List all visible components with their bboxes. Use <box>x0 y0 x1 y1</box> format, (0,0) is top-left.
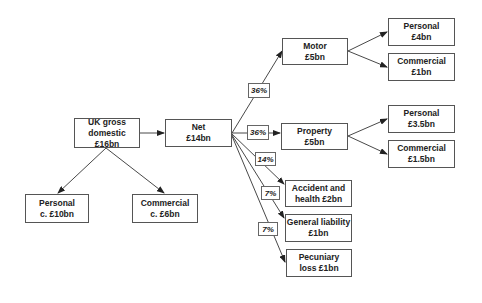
commercial-node: Commercial c. £6bn <box>132 194 198 223</box>
node-label-line2: £5bn <box>305 137 325 148</box>
node-label-line2: c. £10bn <box>40 209 74 220</box>
node-label-line2: £4bn <box>412 32 432 43</box>
node-label-line2: £1.5bn <box>408 154 435 165</box>
pecuniary-loss-share-label: 7% <box>258 222 278 236</box>
node-label-line2: £14bn <box>186 133 211 144</box>
node-label-line1: Commercial <box>141 198 190 209</box>
node-label-line1: Personal <box>39 198 75 209</box>
insurance-market-diagram: UK gross domestic £16bn Personal c. £10b… <box>0 0 482 303</box>
node-label-line2: £5bn <box>305 52 325 63</box>
general-liability-share-label: 7% <box>261 186 280 200</box>
motor-personal-node: Personal £4bn <box>388 18 455 46</box>
pecuniary-loss-node: Pecuniary loss £1bn <box>286 249 352 277</box>
node-label-line1: Pecuniary <box>299 252 340 263</box>
accident-share-label: 14% <box>255 152 276 166</box>
node-label-line2: £1bn <box>412 67 432 78</box>
node-label-line2: c. £6bn <box>150 209 179 220</box>
node-label-line1: Motor <box>303 41 327 52</box>
uk-gross-domestic-node: UK gross domestic £16bn <box>74 118 140 148</box>
node-label-line1: Commercial <box>397 56 446 67</box>
motor-commercial-node: Commercial £1bn <box>388 53 455 81</box>
property-node: Property £5bn <box>281 123 348 150</box>
net-node: Net £14bn <box>165 119 232 147</box>
node-label-line2: £1bn <box>309 228 329 239</box>
node-label-line1: Accident and <box>292 183 345 194</box>
node-label-line1: UK gross <box>88 117 126 128</box>
general-liability-node: General liability £1bn <box>285 214 352 242</box>
node-label-line1: Net <box>192 122 206 133</box>
property-share-label: 36% <box>247 125 269 140</box>
personal-node: Personal c. £10bn <box>25 194 89 223</box>
node-label-line1: Personal <box>404 21 440 32</box>
node-label-line2: loss £1bn <box>299 263 338 274</box>
node-label-line2: £3.5bn <box>408 119 435 130</box>
property-personal-node: Personal £3.5bn <box>388 105 455 133</box>
node-label-line2: health £2bn <box>295 194 342 205</box>
property-commercial-node: Commercial £1.5bn <box>388 140 455 168</box>
motor-share-label: 36% <box>248 83 270 98</box>
node-label-line1: Personal <box>404 108 440 119</box>
motor-node: Motor £5bn <box>282 38 348 65</box>
node-label-line2: domestic £16bn <box>75 128 139 150</box>
node-label-line1: General liability <box>287 217 350 228</box>
accident-health-node: Accident and health £2bn <box>285 180 352 207</box>
node-label-line1: Property <box>297 126 332 137</box>
node-label-line1: Commercial <box>397 143 446 154</box>
